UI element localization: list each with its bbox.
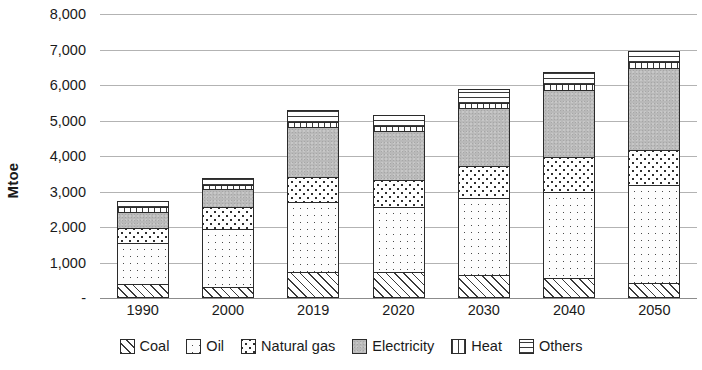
- x-axis-tick-label-2050: 2050: [638, 302, 670, 318]
- bar-segment-others[interactable]: [287, 110, 339, 122]
- bar-segment-others[interactable]: [458, 89, 510, 103]
- bar-segment-others[interactable]: [202, 178, 254, 185]
- bar-2020[interactable]: [373, 14, 425, 298]
- bar-segment-heat[interactable]: [458, 103, 510, 108]
- legend-swatch-oil-icon: [186, 339, 201, 354]
- y-axis-tick-label: 5,000: [50, 113, 86, 129]
- bar-segment-electricity[interactable]: [543, 90, 595, 157]
- bar-segment-natural-gas[interactable]: [373, 180, 425, 207]
- bar-2050[interactable]: [628, 14, 680, 298]
- legend-item-oil[interactable]: Oil: [186, 338, 224, 354]
- x-axis-tick-labels: 1990200020192020203020402050: [100, 302, 697, 328]
- bar-segment-natural-gas[interactable]: [543, 157, 595, 192]
- x-axis-tick-label-1990: 1990: [127, 302, 159, 318]
- legend-item-natural-gas[interactable]: Natural gas: [241, 338, 335, 354]
- bar-segment-coal[interactable]: [117, 284, 169, 298]
- y-axis-tick-labels: -1,0002,0003,0004,0005,0006,0007,0008,00…: [0, 14, 92, 298]
- legend-label: Heat: [471, 338, 502, 354]
- chart-legend: CoalOilNatural gasElectricityHeatOthers: [0, 338, 702, 354]
- x-axis-tick-label-2019: 2019: [297, 302, 329, 318]
- legend-swatch-coal-icon: [120, 339, 135, 354]
- y-axis-tick-label: 6,000: [50, 77, 86, 93]
- bar-segment-oil[interactable]: [373, 207, 425, 272]
- bar-segment-coal[interactable]: [458, 275, 510, 298]
- legend-item-coal[interactable]: Coal: [120, 338, 170, 354]
- bar-segment-heat[interactable]: [287, 122, 339, 127]
- bar-1990[interactable]: [117, 14, 169, 298]
- legend-item-others[interactable]: Others: [519, 338, 583, 354]
- bar-segment-oil[interactable]: [543, 192, 595, 278]
- legend-swatch-heat-icon: [451, 339, 466, 354]
- x-axis-tick-label-2000: 2000: [212, 302, 244, 318]
- bar-segment-natural-gas[interactable]: [287, 177, 339, 202]
- bar-segment-others[interactable]: [628, 51, 680, 62]
- bar-segment-heat[interactable]: [628, 62, 680, 68]
- bar-segment-natural-gas[interactable]: [117, 228, 169, 243]
- bar-segment-others[interactable]: [373, 115, 425, 126]
- legend-label: Others: [539, 338, 583, 354]
- y-axis-tick-label: 8,000: [50, 6, 86, 22]
- bar-segment-oil[interactable]: [287, 202, 339, 272]
- stacked-bar-chart: Mtoe -1,0002,0003,0004,0005,0006,0007,00…: [0, 0, 702, 370]
- y-axis-tick-label: 4,000: [50, 148, 86, 164]
- bar-segment-oil[interactable]: [458, 198, 510, 275]
- y-axis-tick-label: 2,000: [50, 219, 86, 235]
- x-axis-tick-label-2030: 2030: [468, 302, 500, 318]
- bar-segment-electricity[interactable]: [628, 68, 680, 150]
- bar-segment-oil[interactable]: [628, 185, 680, 283]
- legend-swatch-natural-gas-icon: [241, 339, 256, 354]
- bar-2019[interactable]: [287, 14, 339, 298]
- x-axis-tick-label-2020: 2020: [382, 302, 414, 318]
- bar-2030[interactable]: [458, 14, 510, 298]
- bar-segment-coal[interactable]: [628, 283, 680, 298]
- bar-2000[interactable]: [202, 14, 254, 298]
- legend-label: Coal: [140, 338, 170, 354]
- bar-segment-heat[interactable]: [373, 126, 425, 131]
- bar-segment-coal[interactable]: [202, 287, 254, 298]
- bar-segment-heat[interactable]: [117, 207, 169, 212]
- y-axis-tick-label: -: [81, 290, 86, 306]
- legend-label: Natural gas: [261, 338, 335, 354]
- bar-segment-electricity[interactable]: [202, 189, 254, 207]
- plot-area: [100, 14, 697, 298]
- legend-swatch-electricity-icon: [352, 339, 367, 354]
- bar-segment-oil[interactable]: [202, 229, 254, 287]
- axis-baseline: [100, 298, 697, 299]
- bar-segment-heat[interactable]: [202, 185, 254, 189]
- bar-segment-electricity[interactable]: [287, 127, 339, 177]
- bar-segment-heat[interactable]: [543, 84, 595, 90]
- bar-segment-coal[interactable]: [543, 278, 595, 298]
- bar-segment-electricity[interactable]: [458, 108, 510, 166]
- legend-label: Oil: [206, 338, 224, 354]
- legend-label: Electricity: [372, 338, 434, 354]
- bar-segment-natural-gas[interactable]: [202, 207, 254, 229]
- bar-segment-others[interactable]: [543, 72, 595, 85]
- x-axis-tick-label-2040: 2040: [553, 302, 585, 318]
- bar-segment-electricity[interactable]: [117, 212, 169, 228]
- y-axis-tick-label: 3,000: [50, 184, 86, 200]
- legend-item-heat[interactable]: Heat: [451, 338, 502, 354]
- legend-swatch-others-icon: [519, 339, 534, 354]
- bar-segment-coal[interactable]: [373, 272, 425, 298]
- legend-item-electricity[interactable]: Electricity: [352, 338, 434, 354]
- bar-segment-electricity[interactable]: [373, 131, 425, 180]
- y-axis-tick-label: 1,000: [50, 255, 86, 271]
- bar-segment-coal[interactable]: [287, 272, 339, 298]
- bar-segment-others[interactable]: [117, 201, 169, 207]
- bar-segment-oil[interactable]: [117, 243, 169, 284]
- bar-segment-natural-gas[interactable]: [628, 150, 680, 185]
- bar-2040[interactable]: [543, 14, 595, 298]
- bar-segment-natural-gas[interactable]: [458, 166, 510, 198]
- y-axis-tick-label: 7,000: [50, 42, 86, 58]
